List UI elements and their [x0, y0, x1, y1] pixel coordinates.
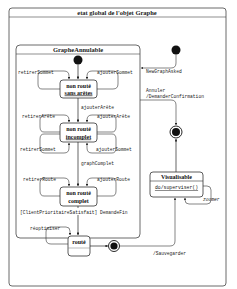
svg-text:retirerArête: retirerArête	[22, 114, 55, 119]
svg-text:NewGraphAsked: NewGraphAsked	[146, 69, 182, 74]
composite-title: GrapheAnnulable	[53, 46, 103, 53]
svg-text:retirerRoute: retirerRoute	[23, 177, 56, 182]
final-state-inner	[109, 241, 120, 252]
state-non-route-sans-aretes: non routé sans arêtes	[60, 80, 97, 98]
state-non-route-complet: non routé complet	[60, 187, 97, 206]
svg-text:non routé: non routé	[66, 190, 91, 196]
svg-text:/DemanderConfirmation: /DemanderConfirmation	[146, 94, 204, 99]
svg-text:routé: routé	[72, 239, 86, 245]
svg-text:do/superviser(): do/superviser()	[155, 185, 198, 190]
svg-text:incomplet: incomplet	[66, 134, 91, 140]
svg-text:ajouterSommet: ajouterSommet	[97, 70, 133, 75]
svg-text:complet: complet	[68, 198, 88, 204]
svg-text:sans arêtes: sans arêtes	[65, 90, 93, 96]
svg-text:Annuler: Annuler	[146, 88, 166, 93]
svg-text:graphComplet: graphComplet	[81, 161, 114, 166]
initial-state-inner	[74, 56, 83, 65]
outer-title: etat global de l'objet Graphe	[77, 9, 157, 16]
svg-text:retirerSommet: retirerSommet	[18, 70, 54, 75]
initial-state-outer	[172, 46, 181, 55]
svg-text:réoptimiser: réoptimiser	[30, 226, 61, 231]
svg-text:ajouterArête: ajouterArête	[81, 105, 114, 110]
state-non-route-incomplet: non routé incomplet	[60, 123, 97, 142]
svg-text:/Sauvegarder: /Sauvegarder	[153, 251, 186, 256]
svg-text:retirerSommet: retirerSommet	[20, 147, 56, 152]
svg-text:ajouterArête: ajouterArête	[97, 114, 130, 119]
state-visualisable: Visualisable do/superviser()	[150, 172, 203, 197]
svg-text:[ClientPrioritaireSatisfait] D: [ClientPrioritaireSatisfait] DemandeFin	[20, 210, 128, 215]
svg-text:zoomer: zoomer	[203, 197, 220, 202]
svg-text:non routé: non routé	[66, 83, 91, 89]
svg-text:Visualisable: Visualisable	[161, 174, 192, 180]
state-diagram: etat global de l'objet Graphe GrapheAnnu…	[0, 0, 237, 289]
svg-text:non routé: non routé	[66, 126, 91, 132]
final-state-outer	[170, 126, 182, 138]
state-route: routé	[68, 236, 90, 256]
svg-text:ajouterRoute: ajouterRoute	[97, 177, 130, 182]
svg-text:ajouterSommet: ajouterSommet	[96, 147, 132, 152]
